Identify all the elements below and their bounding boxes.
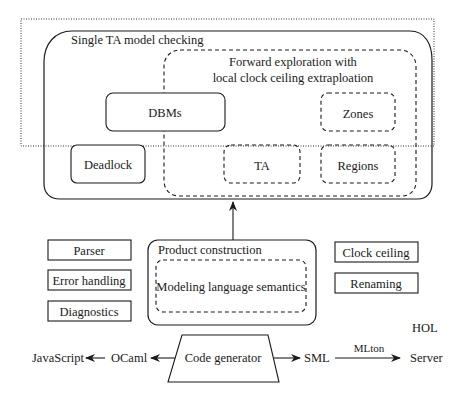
- product-construction-title: Product construction: [158, 244, 262, 257]
- zones-label: Zones: [343, 108, 374, 121]
- sml-label: SML: [304, 352, 330, 365]
- hol-label: HOL: [412, 322, 438, 335]
- diagnostics-label: Diagnostics: [59, 306, 118, 319]
- ocaml-label: OCaml: [111, 352, 147, 365]
- single-ta-title: Single TA model checking: [71, 34, 203, 47]
- deadlock-label: Deadlock: [84, 159, 132, 172]
- parser-label: Parser: [73, 245, 104, 258]
- ta-label: TA: [254, 160, 270, 173]
- semantics-label: Modeling language semantics: [156, 281, 305, 294]
- server-label: Server: [410, 352, 443, 365]
- forward-exploration-title-2: local clock ceiling extraploation: [213, 72, 374, 85]
- mlton-label: MLton: [354, 343, 385, 354]
- regions-label: Regions: [338, 160, 379, 173]
- code-generator-label: Code generator: [185, 352, 262, 365]
- forward-exploration-title-1: Forward exploration with: [229, 56, 357, 69]
- renaming-label: Renaming: [350, 278, 401, 291]
- dbms-label: DBMs: [148, 107, 181, 120]
- javascript-label: JavaScript: [32, 352, 84, 365]
- error-handling-label: Error handling: [52, 275, 125, 288]
- clock-ceiling-label: Clock ceiling: [343, 247, 410, 260]
